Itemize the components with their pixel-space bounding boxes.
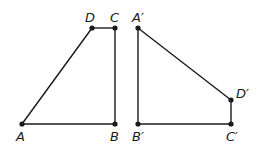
label-A-prime: A′ xyxy=(131,10,144,25)
label-D-prime: D′ xyxy=(236,86,249,101)
label-A: A xyxy=(15,129,25,144)
point-D-prime xyxy=(228,97,233,102)
quadrilateral-a-prime-b-prime-c-prime-d-prime: A′B′C′D′ xyxy=(131,10,249,144)
point-D xyxy=(89,25,94,30)
label-C: C xyxy=(110,10,120,25)
label-B: B xyxy=(110,129,119,144)
segment-DpAp xyxy=(138,28,231,100)
label-C-prime: C′ xyxy=(226,129,238,144)
quadrilateral-abcd: ABCD xyxy=(15,10,120,144)
point-A-prime xyxy=(135,25,140,30)
point-C xyxy=(112,25,117,30)
point-C-prime xyxy=(228,121,233,126)
diagram-canvas: ABCD A′B′C′D′ xyxy=(0,0,261,149)
point-A xyxy=(19,121,24,126)
label-B-prime: B′ xyxy=(132,129,144,144)
label-D: D xyxy=(85,10,95,25)
point-B-prime xyxy=(135,121,140,126)
point-B xyxy=(112,121,117,126)
segment-DA xyxy=(22,28,92,124)
